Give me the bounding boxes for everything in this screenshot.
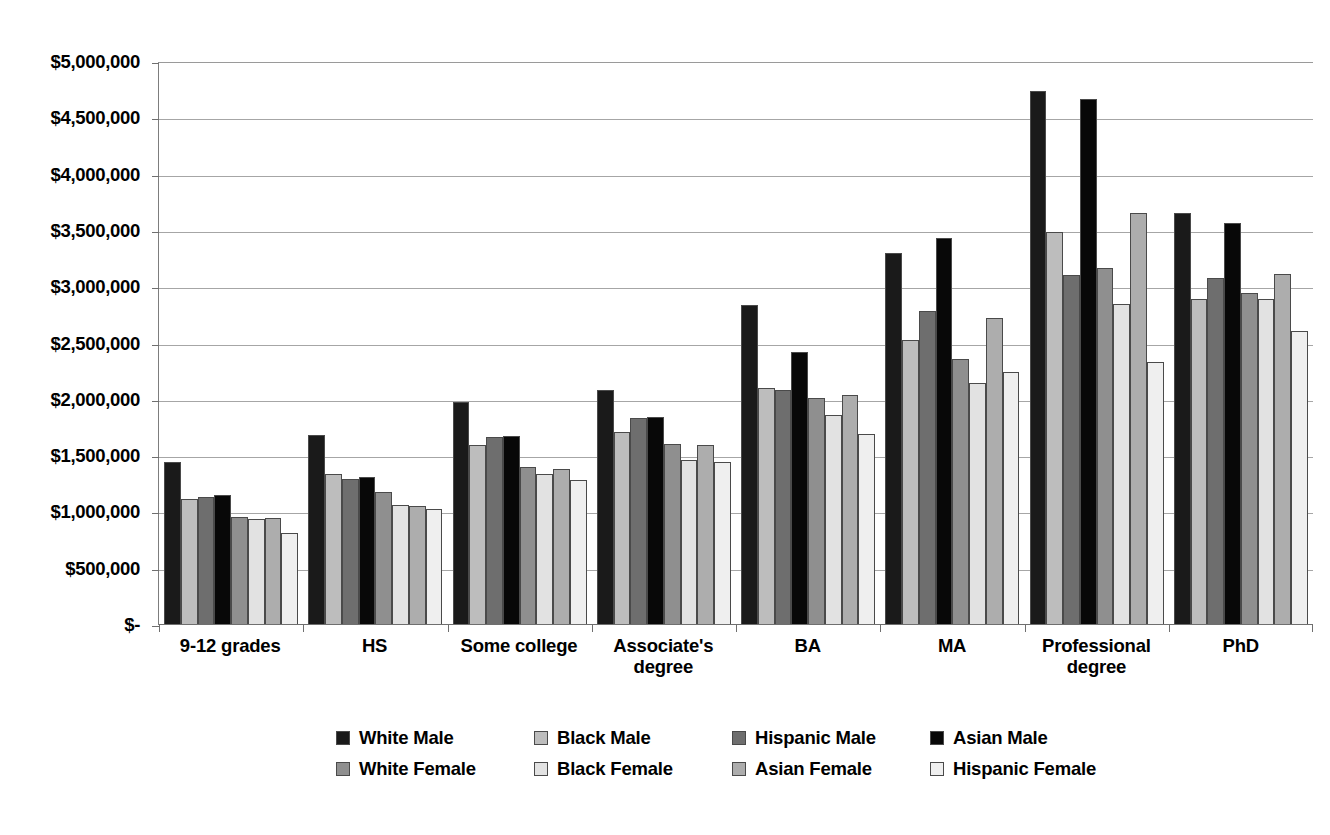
bar[interactable] [469,445,486,625]
bar[interactable] [265,518,282,625]
bar[interactable] [325,474,342,625]
x-axis-category-label: PhD [1169,634,1313,696]
x-axis-tick-mark [159,625,160,632]
bar[interactable] [1130,213,1147,626]
y-axis-tick-mark [152,626,159,627]
y-axis-tick-mark [152,457,159,458]
bar[interactable] [597,390,614,625]
legend-item[interactable]: White Male [336,727,534,749]
bar[interactable] [697,445,714,625]
bar[interactable] [681,460,698,625]
bar[interactable] [198,497,215,625]
bar[interactable] [1003,372,1020,625]
y-axis-tick-label: $5,000,000 [50,51,140,73]
bar-set [308,63,442,625]
bar[interactable] [553,469,570,625]
bar[interactable] [775,390,792,625]
bar[interactable] [281,533,298,625]
bar[interactable] [808,398,825,625]
legend-item[interactable]: Black Male [534,727,732,749]
bar[interactable] [647,417,664,625]
bar[interactable] [1097,268,1114,625]
bar[interactable] [426,509,443,625]
y-axis-tick-label: $2,000,000 [50,389,140,411]
bar[interactable] [181,499,198,625]
bar[interactable] [520,467,537,625]
bar[interactable] [902,340,919,625]
bar[interactable] [1207,278,1224,625]
bar[interactable] [791,352,808,625]
bar[interactable] [570,480,587,625]
bar-chart: $5,000,000$4,500,000$4,000,000$3,500,000… [0,0,1330,700]
bar[interactable] [375,492,392,625]
bar[interactable] [885,253,902,625]
bar[interactable] [1080,99,1097,625]
bar[interactable] [214,495,231,625]
bar[interactable] [342,479,359,625]
bar[interactable] [1147,362,1164,625]
bar[interactable] [359,477,376,625]
legend-label: Asian Female [755,758,872,780]
bar[interactable] [1174,213,1191,626]
bar[interactable] [248,519,265,625]
legend-item[interactable]: White Female [336,758,534,780]
bar[interactable] [453,402,470,625]
bar[interactable] [1224,223,1241,625]
y-axis-tick-mark [152,288,159,289]
bar[interactable] [1258,299,1275,625]
bar[interactable] [231,517,248,625]
bar[interactable] [409,506,426,625]
x-axis-labels: 9-12 gradesHSSome collegeAssociate's deg… [158,634,1313,696]
bar[interactable] [986,318,1003,625]
bar[interactable] [969,383,986,625]
bar[interactable] [664,444,681,625]
bar[interactable] [858,434,875,625]
x-axis-line [159,624,1313,625]
bar[interactable] [392,505,409,625]
x-axis-category-label: BA [736,634,880,696]
bar[interactable] [1291,331,1308,625]
bar[interactable] [741,305,758,625]
bar-set [885,63,1019,625]
bar[interactable] [536,474,553,625]
bar-set [597,63,731,625]
legend-item[interactable]: Hispanic Female [930,758,1120,780]
x-axis-category-label: Professional degree [1024,634,1168,696]
bar[interactable] [630,418,647,625]
x-axis-tick-mark [303,625,304,632]
legend-swatch-icon [732,762,746,776]
x-axis-tick-mark [736,625,737,632]
bar[interactable] [486,437,503,625]
legend-item[interactable]: Black Female [534,758,732,780]
bar[interactable] [758,388,775,625]
legend-item[interactable]: Asian Female [732,758,930,780]
bar[interactable] [936,238,953,625]
bar[interactable] [714,462,731,625]
legend-swatch-icon [336,731,350,745]
bar[interactable] [503,436,520,625]
bar[interactable] [308,435,325,625]
y-axis-tick-mark [152,232,159,233]
bar[interactable] [1274,274,1291,625]
bar-groups [159,63,1313,625]
bar-group [1025,63,1169,625]
plot-area [158,62,1313,625]
bar[interactable] [825,415,842,625]
bar[interactable] [1030,91,1047,625]
bar[interactable] [919,311,936,625]
bar[interactable] [842,395,859,625]
bar[interactable] [1241,293,1258,625]
legend-item[interactable]: Asian Male [930,727,1120,749]
bar[interactable] [1191,299,1208,625]
legend-swatch-icon [534,762,548,776]
bar[interactable] [614,432,631,625]
bar[interactable] [1046,232,1063,625]
legend-label: Hispanic Female [953,758,1096,780]
bar[interactable] [1113,304,1130,625]
bar[interactable] [952,359,969,625]
bar[interactable] [164,462,181,625]
bar-group [448,63,592,625]
y-axis-tick-mark [152,63,159,64]
bar[interactable] [1063,275,1080,625]
legend-item[interactable]: Hispanic Male [732,727,930,749]
